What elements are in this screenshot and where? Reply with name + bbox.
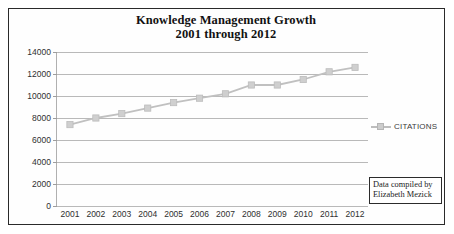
y-axis-label: 8000 <box>5 114 51 123</box>
data-point-2007 <box>222 91 228 97</box>
y-axis-label: 14000 <box>5 48 51 57</box>
x-axis-label-2004: 2004 <box>138 209 157 219</box>
data-point-2011 <box>326 69 332 75</box>
data-point-2001 <box>67 122 73 128</box>
data-point-2012 <box>352 64 358 70</box>
series-line-citations <box>70 67 355 124</box>
x-axis-label-2005: 2005 <box>164 209 183 219</box>
chart-figure: Knowledge Management Growth 2001 through… <box>0 0 454 234</box>
data-point-2006 <box>196 95 202 101</box>
data-point-2004 <box>145 105 151 111</box>
data-point-2005 <box>171 100 177 106</box>
x-axis-label-2010: 2010 <box>294 209 313 219</box>
x-axis-label-2012: 2012 <box>346 209 365 219</box>
y-axis-label: 10000 <box>5 92 51 101</box>
data-point-2009 <box>274 82 280 88</box>
data-point-2002 <box>93 115 99 121</box>
y-axis-label: 6000 <box>5 136 51 145</box>
chart-legend: CITATIONS <box>371 122 437 131</box>
data-credit-annotation: Data compiled by Elizabeth Mezick <box>369 177 442 204</box>
y-axis-label: 12000 <box>5 70 51 79</box>
y-axis-label: 2000 <box>5 180 51 189</box>
data-point-2003 <box>119 111 125 117</box>
series-citations <box>57 52 368 206</box>
x-axis-label-2006: 2006 <box>190 209 209 219</box>
data-point-2010 <box>300 76 306 82</box>
x-axis-label-2001: 2001 <box>60 209 79 219</box>
x-axis-labels: 2001200220032004200520062007200820092010… <box>57 209 368 223</box>
plot-area <box>57 52 368 206</box>
x-axis-label-2007: 2007 <box>216 209 235 219</box>
legend-label-citations: CITATIONS <box>394 122 437 131</box>
x-axis-label-2008: 2008 <box>242 209 261 219</box>
annotation-line-1: Data compiled by <box>373 180 438 190</box>
y-axis-labels: 02000400060008000100001200014000 <box>5 52 51 206</box>
x-axis-label-2009: 2009 <box>268 209 287 219</box>
y-tick-0 <box>53 206 57 207</box>
annotation-line-2: Elizabeth Mezick <box>373 190 438 200</box>
y-axis-label: 0 <box>5 202 51 211</box>
legend-marker-icon <box>371 122 391 131</box>
chart-title-line-1: Knowledge Management Growth <box>136 13 316 27</box>
data-point-2008 <box>248 82 254 88</box>
chart-title: Knowledge Management Growth 2001 through… <box>30 13 422 41</box>
y-axis-label: 4000 <box>5 158 51 167</box>
chart-title-line-2: 2001 through 2012 <box>30 27 422 41</box>
gridline-0 <box>57 206 368 207</box>
x-axis-label-2002: 2002 <box>86 209 105 219</box>
x-axis-label-2003: 2003 <box>112 209 131 219</box>
x-axis-label-2011: 2011 <box>320 209 338 219</box>
